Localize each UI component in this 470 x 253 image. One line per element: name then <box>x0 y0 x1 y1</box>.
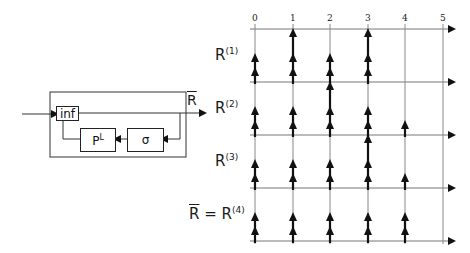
event-arrowhead <box>326 67 334 76</box>
inf-block: inf <box>56 106 79 121</box>
event-arrowhead <box>251 226 259 235</box>
event-arrowhead <box>289 67 297 76</box>
feedback-wire-to-sigma <box>164 113 180 139</box>
event-arrowhead <box>251 53 259 62</box>
event-arrowhead <box>289 226 297 235</box>
tick-label: 4 <box>402 13 408 23</box>
event-arrowhead <box>289 106 297 115</box>
event-arrowhead <box>364 212 372 221</box>
tick-label: 5 <box>440 13 446 23</box>
trajectory-grid <box>250 24 452 244</box>
event-arrowhead <box>251 159 259 168</box>
event-arrowhead <box>364 120 372 129</box>
row-label-r4: R = R(4) <box>189 205 245 223</box>
row-label-r1: R(1) <box>215 46 238 64</box>
event-arrowhead <box>289 212 297 221</box>
event-arrowhead <box>364 173 372 182</box>
event-arrowhead <box>326 226 334 235</box>
event-arrowhead <box>364 106 372 115</box>
event-arrowhead <box>326 212 334 221</box>
tick-label: 0 <box>252 13 258 23</box>
row-label-r3: R(3) <box>215 152 238 170</box>
event-arrowhead <box>401 120 409 129</box>
event-arrowhead <box>326 159 334 168</box>
event-arrowhead <box>251 212 259 221</box>
event-arrowhead <box>251 106 259 115</box>
pl-operator-block: PL <box>80 128 116 152</box>
system-outer-box <box>50 92 186 157</box>
tick-label: 2 <box>327 13 333 23</box>
row-label-r2: R(2) <box>215 99 238 117</box>
sigma-label: σ <box>142 133 150 147</box>
sigma-operator-block: σ <box>127 128 164 152</box>
event-arrowhead <box>251 67 259 76</box>
pl-to-inf-wire <box>63 119 80 139</box>
event-arrowhead <box>401 226 409 235</box>
event-arrowhead <box>289 173 297 182</box>
tick-label: 3 <box>365 13 371 23</box>
event-arrowhead <box>401 212 409 221</box>
event-arrowhead <box>326 53 334 62</box>
event-arrowhead <box>326 120 334 129</box>
tick-label: 1 <box>290 13 296 23</box>
event-arrowhead <box>289 159 297 168</box>
event-arrowhead <box>251 120 259 129</box>
event-arrowhead <box>364 67 372 76</box>
event-arrowhead <box>401 173 409 182</box>
event-arrowhead <box>289 120 297 129</box>
event-arrowhead <box>364 226 372 235</box>
event-arrowhead <box>326 173 334 182</box>
pl-label: PL <box>92 133 104 148</box>
event-arrowhead <box>251 173 259 182</box>
output-r-bar-label: R <box>187 92 197 108</box>
inf-label: inf <box>60 107 75 121</box>
